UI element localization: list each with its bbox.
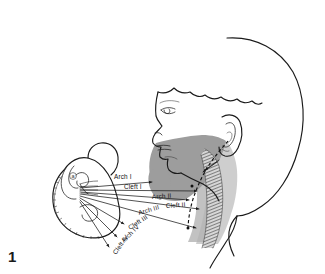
label-arch-2: Arch II [152,192,172,200]
anatomical-diagram: a Arch ICleft IArch IICleft IIArch IIICl… [0,0,325,274]
label-cleft-4: Cleft IV [111,233,130,256]
boundary-dot-lower [187,227,190,230]
label-cleft-2: Cleft II [166,201,186,209]
boundary-dot-upper [191,185,194,188]
figure-container: a Arch ICleft IArch IICleft IIArch IIICl… [0,0,325,274]
label-arch-3: Arch III [137,203,160,216]
label-arch-1: Arch I [114,173,132,180]
embryo-marker-a-text: a [71,173,75,179]
figure-number: 1 [8,248,16,265]
embryo-illustration: a [53,143,120,239]
embryo-marker-a: a [70,173,77,180]
label-cleft-1: Cleft I [124,183,142,190]
eye [161,108,175,114]
somite-rim [53,176,99,239]
leader-arch-4 [80,200,117,237]
